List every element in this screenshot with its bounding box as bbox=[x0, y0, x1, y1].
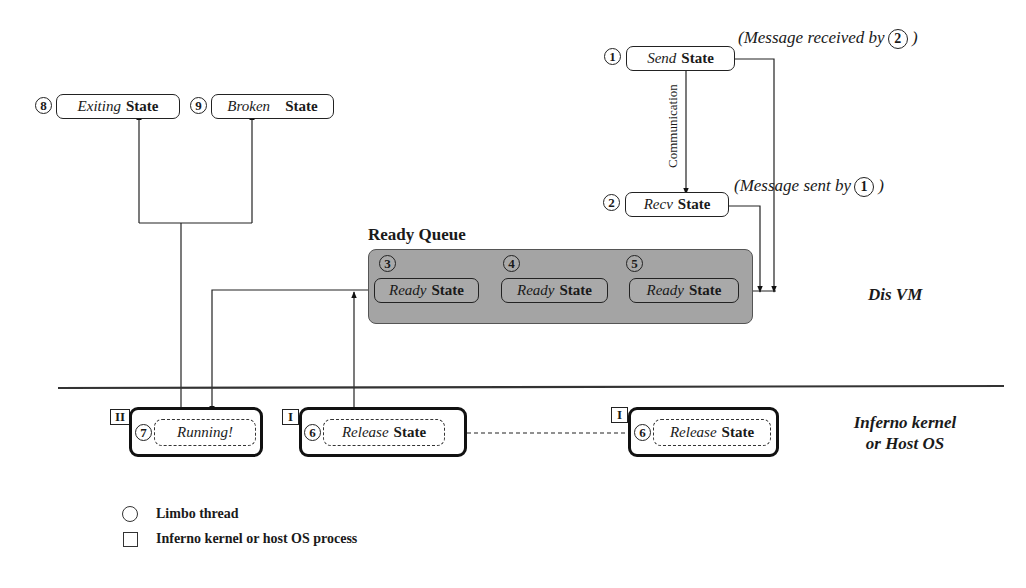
state-italic: Running! bbox=[177, 424, 233, 441]
legend-limbo-thread: Limbo thread bbox=[122, 506, 239, 522]
state-italic: Exiting bbox=[78, 98, 121, 115]
broken-state: Broken State bbox=[211, 94, 334, 119]
state-bold: State bbox=[285, 98, 318, 115]
note-message-sent: (Message sent by1 ) bbox=[734, 176, 884, 197]
ready-state-4: Ready State bbox=[501, 278, 608, 303]
circle-icon bbox=[122, 506, 138, 522]
state-number-6: 6 bbox=[634, 424, 651, 441]
state-italic: Ready bbox=[517, 282, 554, 299]
ready-state-5: Ready State bbox=[629, 278, 739, 303]
dis-vm-label: Dis VM bbox=[868, 284, 922, 305]
process-marker-I: I bbox=[611, 407, 628, 423]
state-number-8: 8 bbox=[35, 97, 52, 114]
state-bold: State bbox=[559, 282, 592, 299]
state-italic: Release bbox=[670, 424, 717, 441]
state-italic: Release bbox=[342, 424, 389, 441]
exiting-state: Exiting State bbox=[56, 94, 180, 119]
square-icon bbox=[123, 532, 138, 547]
process-marker-I: I bbox=[282, 409, 299, 425]
state-bold: State bbox=[394, 424, 427, 441]
state-number-2: 2 bbox=[603, 194, 620, 211]
kernel-label: Inferno kernel or Host OS bbox=[830, 412, 980, 454]
state-number-4: 4 bbox=[503, 255, 520, 272]
state-number-5: 5 bbox=[626, 255, 643, 272]
state-bold: State bbox=[722, 424, 755, 441]
state-italic: Ready bbox=[647, 282, 684, 299]
state-number-9: 9 bbox=[190, 97, 207, 114]
state-bold: State bbox=[681, 50, 714, 67]
legend-os-process: Inferno kernel or host OS process bbox=[123, 531, 357, 547]
state-number-3: 3 bbox=[379, 255, 396, 272]
ref-number-1: 1 bbox=[854, 177, 874, 197]
state-italic: Send bbox=[647, 50, 676, 67]
note-message-received: (Message received by2 ) bbox=[738, 28, 918, 49]
recv-state: Recv State bbox=[625, 192, 729, 217]
state-italic: Ready bbox=[389, 282, 426, 299]
process-marker-II: II bbox=[110, 409, 130, 425]
state-number-6: 6 bbox=[304, 424, 321, 441]
ready-queue-title: Ready Queue bbox=[368, 225, 466, 245]
state-bold: State bbox=[678, 196, 711, 213]
state-italic: Broken bbox=[227, 98, 270, 115]
communication-label: Communication bbox=[665, 84, 681, 168]
state-number-7: 7 bbox=[135, 424, 152, 441]
state-italic: Recv bbox=[644, 196, 673, 213]
running-state: Running! bbox=[154, 419, 256, 446]
state-bold: State bbox=[689, 282, 722, 299]
release-state-right: Release State bbox=[653, 419, 771, 446]
release-state-left: Release State bbox=[323, 419, 445, 446]
state-bold: State bbox=[431, 282, 464, 299]
ready-state-3: Ready State bbox=[374, 278, 479, 303]
state-bold: State bbox=[126, 98, 159, 115]
send-state: Send State bbox=[626, 46, 735, 71]
state-number-1: 1 bbox=[604, 48, 621, 65]
ref-number-2: 2 bbox=[888, 29, 908, 49]
